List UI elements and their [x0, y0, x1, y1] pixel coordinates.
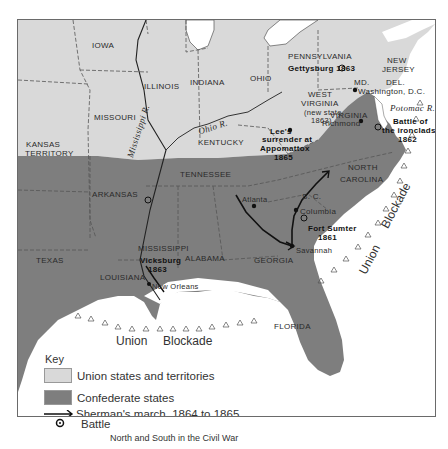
city-label-atlanta: Atlanta — [242, 195, 267, 204]
city-label-new-orleans: New Orleans — [152, 282, 199, 291]
map-frame: IOWA ILLINOIS INDIANA OHIO PENNSYLVANIA … — [17, 19, 436, 417]
battle-icon — [55, 418, 67, 430]
map-graphic — [18, 20, 435, 416]
state-label-north-carolina: NORTH — [348, 163, 378, 172]
battle-label-vicksburg-2: 1863 — [148, 265, 167, 274]
battle-label-ironclads-2: the ironclads — [382, 126, 436, 135]
state-label-west-virginia: WEST — [308, 90, 332, 99]
union-swatch — [44, 368, 72, 383]
legend-item-battle: Battle — [55, 418, 110, 430]
state-label-missouri: MISSOURI — [94, 113, 136, 122]
event-label-appomattox-4: 1865 — [274, 153, 293, 162]
legend-label: Confederate states — [77, 392, 174, 404]
map-caption: North and South in the Civil War — [110, 433, 238, 443]
state-label-texas: TEXAS — [36, 256, 64, 265]
event-label-appomattox-3: Appomattox — [260, 144, 310, 153]
state-label-indiana: INDIANA — [190, 78, 225, 87]
state-label-south-carolina: S. C. — [302, 192, 321, 201]
state-label-north-carolina-2: CAROLINA — [340, 175, 383, 184]
legend-item-confederate: Confederate states — [44, 390, 174, 405]
battle-label-ironclads: Battle of — [393, 117, 428, 126]
legend-item-sherman: Sherman's march, 1864 to 1865 — [44, 408, 239, 417]
battle-label-vicksburg: Vicksburg — [140, 256, 181, 265]
state-label-tennessee: TENNESSEE — [180, 170, 231, 179]
legend-label: Union states and territories — [77, 370, 214, 382]
state-label-kansas: KANSAS — [26, 140, 60, 149]
legend-title: Key — [45, 353, 64, 365]
state-label-louisiana: LOUISIANA — [100, 273, 145, 282]
state-label-ohio: OHIO — [250, 74, 272, 83]
state-label-west-virginia-2: VIRGINIA — [301, 99, 339, 108]
blockade-label-gulf-2: Blockade — [163, 334, 212, 348]
battle-label-fort-sumter: Fort Sumter — [308, 224, 357, 233]
river-label-potomac: Potomac R. — [390, 104, 435, 113]
state-label-new-jersey: NEW — [387, 56, 407, 65]
state-label-maryland: MD. — [354, 78, 370, 87]
city-label-washington: Washington, D.C. — [358, 87, 425, 96]
city-label-columbia: Columbia — [300, 207, 336, 216]
state-label-pennsylvania: PENNSYLVANIA — [288, 52, 352, 61]
legend-label: Battle — [81, 418, 110, 430]
state-label-alabama: ALABAMA — [185, 254, 225, 263]
battle-label-gettysburg: Gettysburg 1863 — [288, 64, 355, 73]
state-label-florida: FLORIDA — [274, 322, 311, 331]
city-label-savannah: Savannah — [296, 246, 332, 255]
state-label-mississippi: MISSISSIPPI — [138, 244, 189, 253]
blockade-label-gulf: Union — [116, 334, 147, 348]
legend-item-union: Union states and territories — [44, 368, 214, 383]
battle-label-ironclads-3: 1862 — [398, 135, 417, 144]
state-label-illinois: ILLINOIS — [144, 82, 179, 91]
event-label-appomattox-2: surrender at — [262, 135, 312, 144]
state-label-kentucky: KENTUCKY — [198, 138, 244, 147]
state-label-georgia: GEORGIA — [254, 256, 293, 265]
state-label-arkansas: ARKANSAS — [92, 190, 138, 199]
arrow-icon — [44, 408, 74, 417]
state-label-kansas-2: TERRITORY — [25, 149, 74, 158]
state-label-delaware: DEL. — [386, 78, 405, 87]
state-label-new-jersey-2: JERSEY — [382, 65, 415, 74]
state-label-iowa: IOWA — [92, 41, 114, 50]
city-label-richmond: Richmond — [322, 119, 360, 128]
legend-label: Sherman's march, 1864 to 1865 — [76, 408, 239, 417]
battle-label-fort-sumter-2: 1861 — [318, 233, 337, 242]
confederate-swatch — [44, 390, 72, 405]
